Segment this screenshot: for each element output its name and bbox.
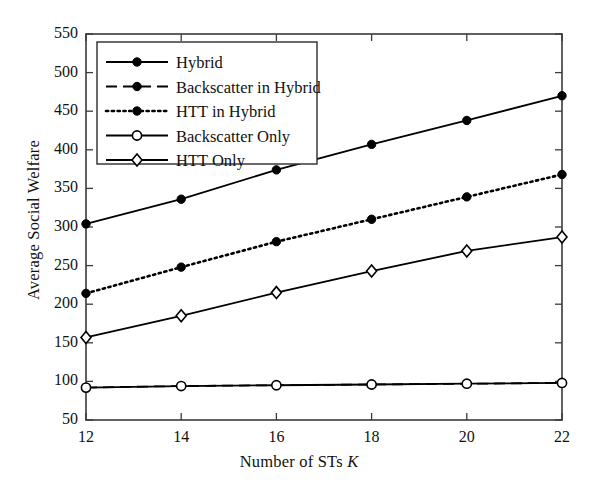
data-point-marker — [133, 58, 141, 66]
x-axis-title: Number of STs K — [0, 452, 598, 472]
x-tick-label: 22 — [542, 428, 582, 446]
data-point-marker — [272, 237, 280, 245]
data-point-marker — [558, 92, 566, 100]
data-point-marker — [177, 381, 186, 390]
data-point-marker — [271, 287, 281, 299]
series-htt-only — [81, 231, 567, 343]
data-point-marker — [462, 379, 471, 388]
data-point-marker — [176, 310, 186, 322]
y-axis-title: Average Social Welfare — [24, 20, 44, 420]
series-htt-in-hybrid — [82, 170, 566, 297]
x-axis-title-text: Number of STs — [240, 452, 348, 471]
legend-item-label: Backscatter Only — [176, 127, 291, 146]
data-point-marker — [367, 265, 377, 277]
data-point-marker — [81, 331, 91, 343]
data-point-marker — [177, 195, 185, 203]
data-point-marker — [367, 380, 376, 389]
data-point-marker — [557, 378, 566, 387]
legend-item-label: HTT in Hybrid — [176, 102, 276, 121]
data-point-marker — [557, 231, 567, 243]
line-chart: HybridBackscatter in HybridHTT in Hybrid… — [0, 0, 598, 489]
series-backscatter-only — [81, 378, 566, 392]
data-point-marker — [463, 193, 471, 201]
data-point-marker — [367, 140, 375, 148]
x-axis-symbol: K — [347, 452, 358, 471]
y-axis-title-text: Average Social Welfare — [24, 140, 43, 300]
data-point-marker — [463, 116, 471, 124]
x-tick-label: 14 — [161, 428, 201, 446]
legend-item-label: Hybrid — [176, 53, 223, 72]
data-point-marker — [558, 170, 566, 178]
data-point-marker — [272, 381, 281, 390]
data-point-marker — [81, 383, 90, 392]
data-point-marker — [82, 220, 90, 228]
legend: HybridBackscatter in HybridHTT in Hybrid… — [97, 42, 322, 170]
legend-item-label: HTT Only — [176, 151, 246, 170]
x-tick-label: 12 — [66, 428, 106, 446]
data-point-marker — [132, 131, 141, 140]
legend-item-label: Backscatter in Hybrid — [176, 78, 322, 97]
data-point-marker — [133, 107, 141, 115]
data-point-marker — [177, 263, 185, 271]
figure-container: HybridBackscatter in HybridHTT in Hybrid… — [0, 0, 598, 489]
data-point-marker — [133, 82, 141, 90]
x-tick-label: 16 — [256, 428, 296, 446]
x-tick-label: 20 — [447, 428, 487, 446]
data-point-marker — [82, 289, 90, 297]
data-point-marker — [272, 166, 280, 174]
data-point-marker — [462, 245, 472, 257]
data-point-marker — [367, 215, 375, 223]
x-tick-label: 18 — [352, 428, 392, 446]
